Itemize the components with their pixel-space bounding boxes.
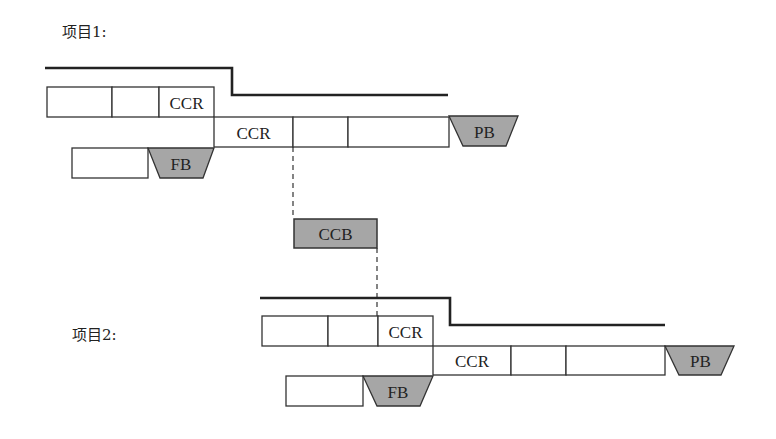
capacity-buffer-label: CCB xyxy=(318,225,352,244)
project-2-chain: CCRCCRFBPB xyxy=(260,298,734,406)
diagram-canvas: CCRCCRFBPBCCRCCRFBPBCCB xyxy=(0,0,776,439)
task-box xyxy=(112,87,159,117)
feeding-task-box xyxy=(72,148,148,178)
task-box xyxy=(293,117,348,147)
ccr-task-label: CCR xyxy=(455,352,490,371)
project-1-chain: CCRCCRFBPB xyxy=(45,68,518,178)
task-box xyxy=(566,346,665,375)
task-box xyxy=(47,87,112,117)
task-box xyxy=(348,117,449,147)
task-box xyxy=(262,316,328,346)
ccr-task-label: CCR xyxy=(236,124,271,143)
feeding-buffer-label: FB xyxy=(388,383,409,402)
project-buffer-label: PB xyxy=(474,123,495,142)
feeding-task-box xyxy=(286,376,363,406)
ccr-task-label: CCR xyxy=(169,94,204,113)
ccr-task-label: CCR xyxy=(388,323,423,342)
feeding-buffer-label: FB xyxy=(171,155,192,174)
task-box xyxy=(328,316,378,346)
project-buffer-label: PB xyxy=(690,352,711,371)
task-box xyxy=(511,346,566,375)
